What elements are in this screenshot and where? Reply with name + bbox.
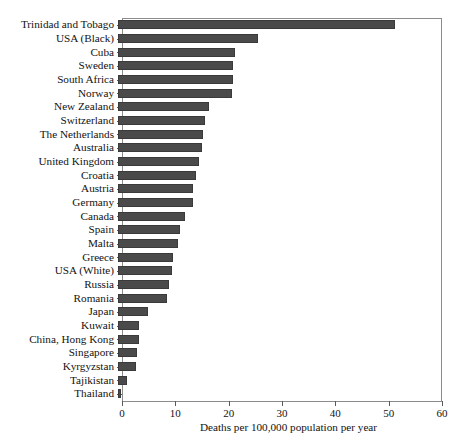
bar-row: Trinidad and Tobago — [0, 18, 471, 32]
bar — [118, 389, 121, 398]
bar-track — [118, 86, 471, 100]
bar — [118, 376, 127, 385]
bar — [118, 171, 196, 180]
bar-track — [118, 237, 471, 251]
bar-track — [118, 45, 471, 59]
bar-track — [118, 182, 471, 196]
bar — [118, 280, 169, 289]
x-axis-tick-label: 0 — [119, 407, 125, 419]
bar-category-label: Norway — [0, 88, 118, 99]
bar-row: Croatia — [0, 168, 471, 182]
bar — [118, 266, 172, 275]
bar-category-label: Kuwait — [0, 320, 118, 331]
bar-category-label: China, Hong Kong — [0, 334, 118, 345]
x-axis-tick — [175, 401, 176, 406]
bar-row: Japan — [0, 305, 471, 319]
bar-row: Romania — [0, 291, 471, 305]
bar-category-label: Kyrgyzstan — [0, 361, 118, 372]
bar-chart: Trinidad and TobagoUSA (Black)CubaSweden… — [0, 0, 471, 448]
bar — [118, 157, 199, 166]
bar-row: Cuba — [0, 45, 471, 59]
bar-row: Canada — [0, 209, 471, 223]
bar-track — [118, 209, 471, 223]
bar-category-label: South Africa — [0, 74, 118, 85]
bar-track — [118, 332, 471, 346]
bar-track — [118, 155, 471, 169]
bar-category-label: Trinidad and Tobago — [0, 19, 118, 30]
bar — [118, 143, 202, 152]
bar-category-label: Tajikistan — [0, 375, 118, 386]
x-axis-title: Deaths per 100,000 population per year — [0, 421, 471, 433]
bar — [118, 212, 185, 221]
bar-row: Malta — [0, 237, 471, 251]
bar — [118, 294, 167, 303]
bar-category-label: Greece — [0, 252, 118, 263]
bar-category-label: Canada — [0, 211, 118, 222]
bar-track — [118, 319, 471, 333]
bar-row: Sweden — [0, 59, 471, 73]
bar-rows: Trinidad and TobagoUSA (Black)CubaSweden… — [0, 18, 471, 401]
bar-category-label: Sweden — [0, 60, 118, 71]
bar-category-label: Romania — [0, 293, 118, 304]
bar — [118, 61, 233, 70]
bar-row: USA (Black) — [0, 32, 471, 46]
bar-track — [118, 223, 471, 237]
bar-track — [118, 291, 471, 305]
bar-category-label: Japan — [0, 306, 118, 317]
bar-track — [118, 196, 471, 210]
bar-track — [118, 250, 471, 264]
bar — [118, 89, 232, 98]
bar — [118, 130, 203, 139]
bar-category-label: Switzerland — [0, 115, 118, 126]
bar-track — [118, 387, 471, 401]
x-axis-tick-label: 40 — [330, 407, 341, 419]
bar — [118, 102, 209, 111]
bar-row: Kyrgyzstan — [0, 360, 471, 374]
bar-category-label: Australia — [0, 142, 118, 153]
bar-category-label: Austria — [0, 183, 118, 194]
x-axis-tick-label: 30 — [277, 407, 288, 419]
bar-row: Russia — [0, 278, 471, 292]
bar — [118, 335, 139, 344]
bar — [118, 34, 258, 43]
bar — [118, 198, 193, 207]
bar-row: Thailand — [0, 387, 471, 401]
bar-category-label: USA (Black) — [0, 33, 118, 44]
bar-row: Germany — [0, 196, 471, 210]
bar-row: Kuwait — [0, 319, 471, 333]
x-axis-title-text: Deaths per 100,000 population per year — [94, 421, 377, 433]
x-axis-tick-label: 20 — [223, 407, 234, 419]
bar — [118, 225, 180, 234]
bar-row: Norway — [0, 86, 471, 100]
bar-category-label: Cuba — [0, 47, 118, 58]
bar-track — [118, 18, 471, 32]
bar-track — [118, 278, 471, 292]
bar-row: South Africa — [0, 73, 471, 87]
bar-track — [118, 305, 471, 319]
bar-category-label: United Kingdom — [0, 156, 118, 167]
x-axis-tick — [442, 401, 443, 406]
bar-row: The Netherlands — [0, 127, 471, 141]
x-axis-tick — [229, 401, 230, 406]
bar-row: Austria — [0, 182, 471, 196]
bar-track — [118, 346, 471, 360]
bar-track — [118, 141, 471, 155]
x-axis-tick — [282, 401, 283, 406]
bar-category-label: New Zealand — [0, 101, 118, 112]
bar-category-label: USA (White) — [0, 265, 118, 276]
bar-row: Switzerland — [0, 114, 471, 128]
bar — [118, 184, 193, 193]
bar-track — [118, 59, 471, 73]
bar-row: United Kingdom — [0, 155, 471, 169]
bar-track — [118, 360, 471, 374]
bar-category-label: Croatia — [0, 170, 118, 181]
bar-track — [118, 114, 471, 128]
bar-row: Australia — [0, 141, 471, 155]
bar — [118, 253, 173, 262]
bar-track — [118, 73, 471, 87]
x-axis-tick — [335, 401, 336, 406]
bar-track — [118, 32, 471, 46]
bar — [118, 321, 139, 330]
bar-row: Tajikistan — [0, 373, 471, 387]
x-axis-tick — [122, 401, 123, 406]
